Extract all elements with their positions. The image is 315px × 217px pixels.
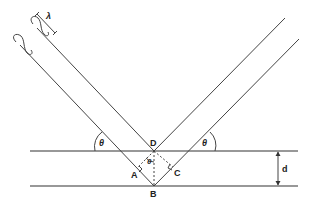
reflected-ray-1 — [154, 18, 285, 151]
reflected-ray-2 — [154, 39, 299, 186]
right-angle-A — [139, 166, 142, 172]
bragg-diagram: λ θ θ θ D A B C d — [0, 0, 315, 217]
incident-ray-1 — [37, 28, 154, 151]
theta-label-right: θ — [202, 138, 207, 148]
label-B: B — [150, 189, 157, 199]
spacing-label: d — [282, 164, 288, 174]
spacing-arrowhead-top — [276, 152, 281, 157]
right-angle-C — [168, 164, 172, 170]
incident-ray-2 — [20, 45, 154, 186]
label-C: C — [174, 168, 181, 178]
wavelength-label: λ — [45, 11, 51, 21]
theta-arc-right — [210, 132, 216, 151]
theta-label-center: θ — [147, 157, 152, 166]
theta-label-left: θ — [99, 138, 104, 148]
spacing-arrowhead-bottom — [276, 181, 281, 186]
label-D: D — [150, 138, 157, 148]
label-A: A — [131, 170, 138, 180]
wave-icon-ray-2 — [13, 34, 32, 54]
